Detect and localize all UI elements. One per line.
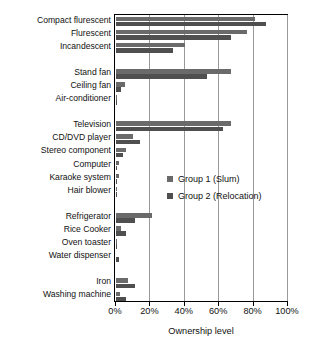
bar-group-1 [116,174,119,179]
bar-group-2 [116,48,173,53]
bar-group-2 [116,231,126,236]
legend-label-group-1: Group 1 (Slum) [178,174,240,184]
bar-series-container [115,15,287,301]
bar-group-2 [116,153,123,158]
bar-group-2 [116,166,117,171]
bar-group-1 [116,239,117,244]
plot-area: Group 1 (Slum) Group 2 (Relocation) [114,14,288,302]
bar-group-2 [116,22,266,27]
bar-group-1 [116,82,125,87]
category-label: Iron [0,277,111,286]
bar-group-2 [116,35,231,40]
legend-item-group-2: Group 2 (Relocation) [167,191,287,201]
ownership-level-bar-chart: Compact flurescentFlurescentIncandescent… [0,0,318,354]
bar-group-2 [116,87,121,92]
legend-item-group-1: Group 1 (Slum) [167,174,287,184]
category-label: CD/DVD player [0,133,111,142]
bar-group-1 [116,292,120,297]
legend-swatch-icon-group-1 [167,176,173,182]
legend-label-group-2: Group 2 (Relocation) [178,191,262,201]
bar-group-2 [116,127,223,132]
bar-group-1 [116,278,128,283]
category-label: Washing machine [0,290,111,299]
x-axis-tick-label: 100% [275,306,299,317]
bar-group-2 [116,179,117,184]
x-axis-tick-label: 40% [175,306,193,317]
bar-group-1 [116,95,117,100]
bar-group-1 [116,134,133,139]
bar-group-2 [116,74,207,79]
bar-group-1 [116,30,247,35]
category-label: Flurescent [0,29,111,38]
category-label: Refrigerator [0,212,111,221]
bar-group-2 [116,257,119,262]
bar-group-1 [116,226,121,231]
category-label: Water dispenser [0,251,111,260]
bar-group-2 [116,218,135,223]
x-axis-tick-label: 0% [108,306,121,317]
category-label: Incandescent [0,42,111,51]
bar-group-1 [116,69,231,74]
x-axis-tick-labels: 0%20%40%60%80%100% [114,306,288,320]
category-label: Ceiling fan [0,81,111,90]
bar-group-1 [116,43,185,48]
category-label: Rice Cooker [0,225,111,234]
category-label: Stand fan [0,68,111,77]
category-label: Stereo component [0,146,111,155]
bar-group-1 [116,148,126,153]
bar-group-2 [116,100,117,105]
gridline [287,15,288,301]
bar-group-2 [116,244,117,249]
chart-legend: Group 1 (Slum) Group 2 (Relocation) [167,174,287,208]
bar-group-1 [116,17,255,22]
bar-group-2 [116,140,140,145]
bar-group-1 [116,121,231,126]
category-label: Air-conditioner [0,94,111,103]
bar-group-2 [116,297,126,302]
category-label: Oven toaster [0,238,111,247]
category-label: Compact flurescent [0,16,111,25]
x-axis-tick-label: 60% [209,306,227,317]
bar-group-2 [116,284,135,289]
legend-swatch-icon-group-2 [167,193,173,199]
category-label: Hair blower [0,186,111,195]
x-axis-title: Ownership level [114,325,288,337]
bar-group-1 [116,161,119,166]
x-axis-tick-label: 80% [243,306,261,317]
bar-group-2 [116,192,117,197]
category-label: Television [0,120,111,129]
category-label: Karaoke system [0,173,111,182]
bar-group-1 [116,213,152,218]
bar-group-1 [116,187,117,192]
category-axis-labels: Compact flurescentFlurescentIncandescent… [0,14,111,302]
x-axis-tick-label: 20% [140,306,158,317]
category-label: Computer [0,160,111,169]
